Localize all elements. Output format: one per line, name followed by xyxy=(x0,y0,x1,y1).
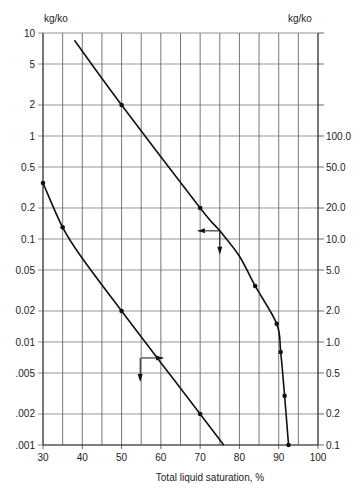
left-y-tick-label: 0.01 xyxy=(16,337,36,348)
x-tick-label: 60 xyxy=(155,452,167,463)
x-tick-label: 90 xyxy=(273,452,285,463)
relative-permeability-chart: 105210.50.20.10.050.020.01.005.002.00110… xyxy=(0,0,362,498)
left-y-tick-label: 1 xyxy=(29,131,35,142)
x-tick-label: 80 xyxy=(234,452,246,463)
right-axis-title: kg/ko xyxy=(288,13,312,24)
right-y-tick-label: 0.5 xyxy=(326,368,340,379)
left-y-tick-label: 5 xyxy=(29,59,35,70)
axes: 105210.50.20.10.050.020.01.005.002.00110… xyxy=(16,28,352,464)
data-point-marker xyxy=(41,181,46,186)
data-point-marker xyxy=(282,394,287,399)
data-point-marker xyxy=(286,443,291,448)
x-tick-label: 70 xyxy=(195,452,207,463)
left-y-tick-label: 10 xyxy=(24,28,36,39)
data-point-marker xyxy=(60,225,65,230)
arrow-left-icon xyxy=(198,228,205,233)
right-y-tick-label: 2.0 xyxy=(326,305,340,316)
x-tick-label: 30 xyxy=(37,452,49,463)
x-tick-label: 40 xyxy=(77,452,89,463)
left-y-tick-label: 0.1 xyxy=(21,234,35,245)
arrow-down-icon xyxy=(138,374,143,382)
right-y-tick-label: 10.0 xyxy=(326,234,346,245)
right-y-tick-label: 5.0 xyxy=(326,265,340,276)
left-axis-title: kg/ko xyxy=(44,13,68,24)
data-point-marker xyxy=(198,412,203,417)
left-y-tick-label: 2 xyxy=(29,99,35,110)
right-y-tick-label: 100.0 xyxy=(326,131,351,142)
left-y-tick-label: .005 xyxy=(16,368,36,379)
axis-labels: kg/ko kg/ko Total liquid saturation, % xyxy=(44,13,312,483)
right-y-tick-label: 0.1 xyxy=(326,440,340,451)
arrow-down-icon xyxy=(217,247,222,255)
left-y-tick-label: .001 xyxy=(16,440,36,451)
upper-curve xyxy=(74,40,288,445)
right-y-tick-label: 0.2 xyxy=(326,408,340,419)
data-point-marker xyxy=(274,322,279,327)
left-y-tick-label: 0.5 xyxy=(21,162,35,173)
data-point-marker xyxy=(198,206,203,211)
data-curves xyxy=(41,40,291,447)
arrow-right-icon xyxy=(156,355,163,360)
left-y-tick-label: 0.02 xyxy=(16,305,36,316)
x-axis-title: Total liquid saturation, % xyxy=(156,472,265,483)
x-tick-label: 100 xyxy=(310,452,327,463)
left-y-tick-label: 0.05 xyxy=(16,265,36,276)
left-y-tick-label: 0.2 xyxy=(21,202,35,213)
x-tick-label: 50 xyxy=(116,452,128,463)
right-y-tick-label: 20.0 xyxy=(326,202,346,213)
data-point-marker xyxy=(119,103,124,108)
left-y-tick-label: .002 xyxy=(16,408,36,419)
data-point-marker xyxy=(278,350,283,355)
grid-lines xyxy=(38,33,318,445)
right-y-tick-label: 50.0 xyxy=(326,162,346,173)
data-point-marker xyxy=(253,284,258,289)
right-y-tick-label: 1.0 xyxy=(326,337,340,348)
lower-curve xyxy=(43,183,224,445)
data-point-marker xyxy=(119,309,124,314)
